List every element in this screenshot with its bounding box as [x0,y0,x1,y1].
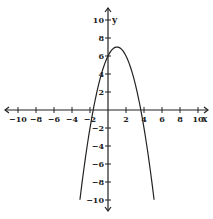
x-tick-label: −4 [66,114,79,124]
y-tick-label: 6 [98,51,104,61]
x-axis-label: x [202,114,208,124]
x-tick-label: −10 [9,114,27,124]
x-tick-label: −8 [30,114,43,124]
x-tick-label: 8 [177,114,183,124]
x-tick-label: 6 [159,114,165,124]
y-tick-label: −6 [92,159,105,169]
x-tick-label: −6 [48,114,61,124]
y-tick-label: −8 [92,177,105,187]
y-axis-label: y [111,15,118,25]
y-tick-label: 10 [93,15,105,25]
y-tick-label: 8 [98,33,104,43]
coordinate-graph: −10−8−6−4−2246810−10−8−6−4−2246810 x y [0,0,213,219]
y-tick-label: −2 [92,123,104,133]
y-tick-label: −4 [92,141,105,151]
y-tick-label: −10 [86,195,104,205]
y-tick-label: 2 [98,87,104,97]
x-tick-label: 2 [123,114,129,124]
